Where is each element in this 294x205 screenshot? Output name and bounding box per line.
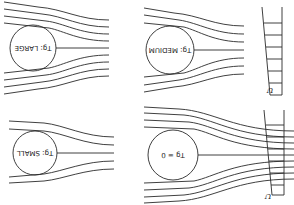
u-label-top: U xyxy=(266,86,273,95)
label-small: Tg: SMALL xyxy=(17,149,54,157)
velocity-profile-bottom xyxy=(262,7,282,95)
label-medium: Tg: MEDIUM xyxy=(149,46,192,54)
u-label-bottom: U xyxy=(264,192,271,201)
label-zero: Tg = 0 xyxy=(161,151,186,159)
velocity-profile-top xyxy=(264,110,284,195)
label-large: Tg: LARGE xyxy=(15,44,53,52)
flow-diagram: Tg: LARGE Tg: MEDIUM Tg: SMALL Tg = 0 U … xyxy=(0,0,294,205)
